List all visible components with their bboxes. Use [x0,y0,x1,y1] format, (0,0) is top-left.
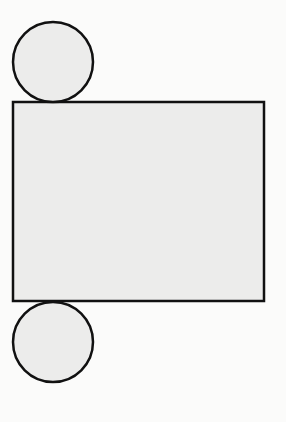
cylinder-bottom-base-circle [13,302,93,382]
cylinder-top-base-circle [13,22,93,102]
cylinder-net-diagram [0,0,286,422]
cylinder-lateral-surface-rectangle [13,102,264,301]
